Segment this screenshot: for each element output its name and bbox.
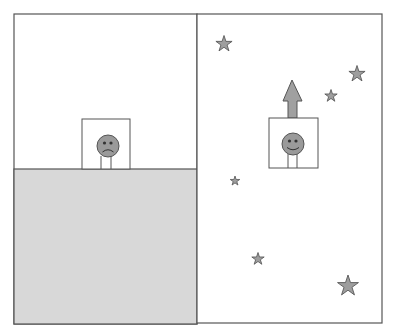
eye-icon [109,141,112,144]
eye-icon [288,139,291,142]
sad-figure [82,119,130,169]
right-panel [197,14,382,323]
ground [14,169,197,324]
diagram-canvas [0,0,394,335]
happy-figure [269,118,318,168]
eye-icon [103,141,106,144]
eye-icon [294,139,297,142]
sad-face-icon [97,135,119,157]
happy-face-icon [282,133,304,155]
left-panel [14,14,197,324]
